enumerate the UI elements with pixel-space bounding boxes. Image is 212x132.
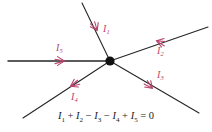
equation-sign-5: +	[122, 110, 128, 121]
equation-term-2: I2	[76, 110, 83, 121]
equation-sign-3: −	[86, 110, 92, 121]
label-branch-5: I5	[56, 43, 63, 53]
label-branch-4: I4	[71, 92, 78, 102]
equation-sign-2: +	[68, 110, 74, 121]
equation-term-4: I4	[112, 110, 119, 121]
label-branch-1: I1	[103, 24, 110, 34]
equation-term-1: I1	[58, 110, 65, 121]
current-junction-figure: I1 I2 I3 I4 I5 I1 + I2 − I3 − I4 + I5 = …	[0, 0, 212, 132]
wire-branch-3	[110, 61, 199, 113]
equation-term-5: I5	[131, 110, 138, 121]
junction-node	[105, 56, 114, 65]
label-branch-3: I3	[157, 70, 164, 80]
equation-rhs: = 0	[140, 110, 154, 121]
label-branch-2: I2	[157, 46, 164, 56]
equation-term-3: I3	[94, 110, 101, 121]
current-arrowheads	[55, 20, 166, 91]
equation-sign-4: −	[104, 110, 110, 121]
kirchhoff-equation: I1 + I2 − I3 − I4 + I5 = 0	[0, 110, 212, 124]
